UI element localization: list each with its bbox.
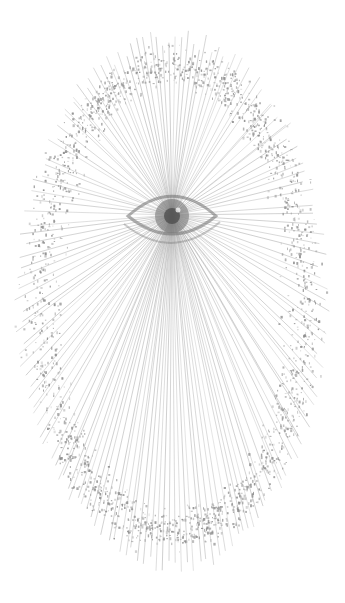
string-art-eye-artwork	[0, 0, 345, 603]
